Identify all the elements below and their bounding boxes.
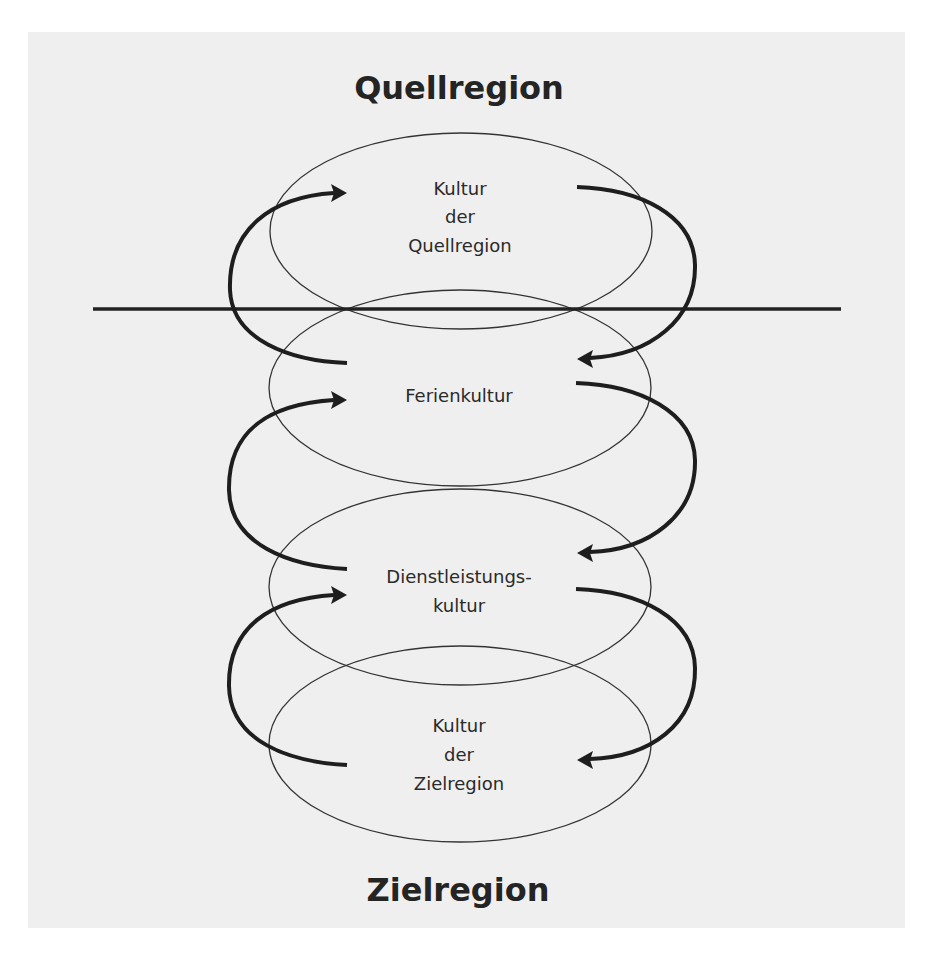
label-line: der	[444, 744, 475, 765]
label-line: Kultur	[433, 178, 487, 199]
tourism-culture-diagram: Quellregion Kultur der Quellregi	[0, 0, 932, 957]
label-line: Dienstleistungs-	[386, 566, 531, 587]
label-line: Zielregion	[414, 773, 504, 794]
label-line: Kultur	[432, 715, 486, 736]
title-source-region: Quellregion	[354, 69, 564, 107]
label-line: Quellregion	[408, 235, 512, 256]
label-line: Ferienkultur	[405, 385, 513, 406]
label-line: kultur	[433, 595, 486, 616]
title-destination-region: Zielregion	[367, 871, 550, 909]
label-line: der	[445, 206, 476, 227]
label-holiday-culture: Ferienkultur	[405, 385, 513, 406]
